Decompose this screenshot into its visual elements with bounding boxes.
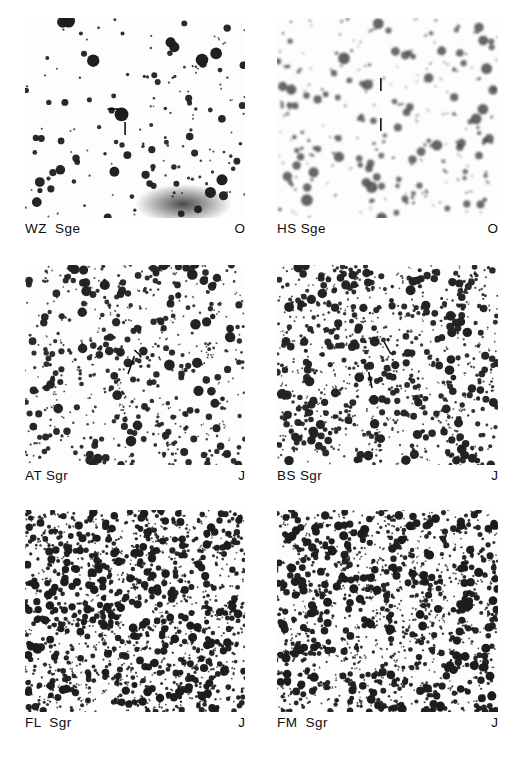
finder-chart-panel-wz-sge: WZ SgeO [25,18,245,243]
sky-image-at-sgr [25,265,245,465]
finder-chart-figure: WZ SgeOHS SgeOAT SgrJBS SgrJFL SgrJFM Sg… [0,0,528,762]
sky-image-wz-sge [25,18,245,218]
sky-image-bs-sgr [277,265,498,465]
sky-image-fm-sgr [277,510,498,712]
star-designation-wz-sge: WZ Sge [25,221,80,236]
plate-band-label-at-sgr: J [238,468,245,483]
panel-grid: WZ SgeOHS SgeOAT SgrJBS SgrJFL SgrJFM Sg… [0,0,528,762]
plate-band-label-hs-sge: O [487,221,498,236]
star-designation-bs-sgr: BS Sgr [277,468,322,483]
star-designation-at-sgr: AT Sgr [25,468,68,483]
panel-caption-fm-sgr: FM SgrJ [277,715,498,737]
finder-chart-panel-fm-sgr: FM SgrJ [277,510,498,737]
plate-band-label-fl-sgr: J [238,715,245,730]
panel-caption-at-sgr: AT SgrJ [25,468,245,490]
finder-chart-panel-at-sgr: AT SgrJ [25,265,245,490]
star-designation-fm-sgr: FM Sgr [277,715,328,730]
plate-band-label-bs-sgr: J [491,468,498,483]
panel-caption-fl-sgr: FL SgrJ [25,715,245,737]
finder-chart-panel-fl-sgr: FL SgrJ [25,510,245,737]
finder-chart-panel-hs-sge: HS SgeO [277,18,498,243]
panel-caption-hs-sge: HS SgeO [277,221,498,243]
star-designation-hs-sge: HS Sge [277,221,326,236]
panel-caption-bs-sgr: BS SgrJ [277,468,498,490]
plate-band-label-wz-sge: O [234,221,245,236]
finder-chart-panel-bs-sgr: BS SgrJ [277,265,498,490]
star-designation-fl-sgr: FL Sgr [25,715,72,730]
sky-image-hs-sge [277,18,498,218]
sky-image-fl-sgr [25,510,245,712]
panel-caption-wz-sge: WZ SgeO [25,221,245,243]
plate-band-label-fm-sgr: J [491,715,498,730]
